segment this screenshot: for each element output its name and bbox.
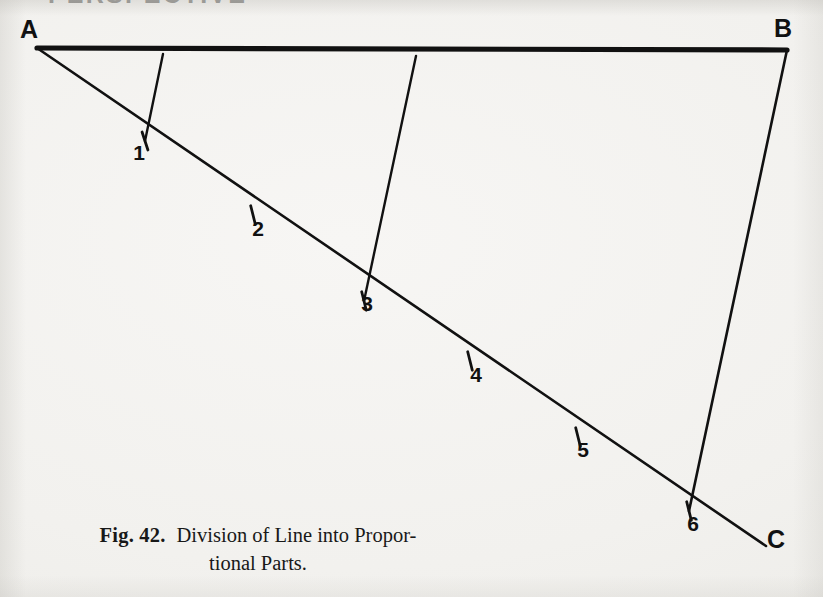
vertex-label-a: A <box>20 15 38 43</box>
division-point-label-5: 5 <box>577 438 589 461</box>
figure-caption-line-2: tional Parts. <box>58 549 458 577</box>
division-ticks-group <box>142 132 691 520</box>
figure-caption-line-1: Division of Line into Propor- <box>177 524 417 546</box>
division-point-label-6: 6 <box>687 512 699 535</box>
transversals-group <box>145 50 787 511</box>
vertex-label-b: B <box>774 14 792 42</box>
division-point-label-3: 3 <box>361 292 373 315</box>
vertex-labels-group: ABC <box>20 14 792 553</box>
line-ab <box>37 48 787 50</box>
figure-number-label: Fig. 42. <box>100 524 166 546</box>
figure-42-diagram: 123456 ABC <box>0 0 823 597</box>
division-point-label-2: 2 <box>252 217 264 240</box>
figure-caption: Fig. 42.Division of Line into Propor- ti… <box>58 521 458 577</box>
division-point-labels-group: 123456 <box>133 141 699 535</box>
vertex-label-c: C <box>767 525 785 553</box>
transversal-3 <box>364 56 416 301</box>
division-point-label-1: 1 <box>133 141 145 164</box>
division-point-label-4: 4 <box>470 363 482 386</box>
scanned-book-page: PERSPECTIVE 123456 ABC Fig. 42.Division … <box>0 0 823 597</box>
transversal-6 <box>689 50 787 511</box>
